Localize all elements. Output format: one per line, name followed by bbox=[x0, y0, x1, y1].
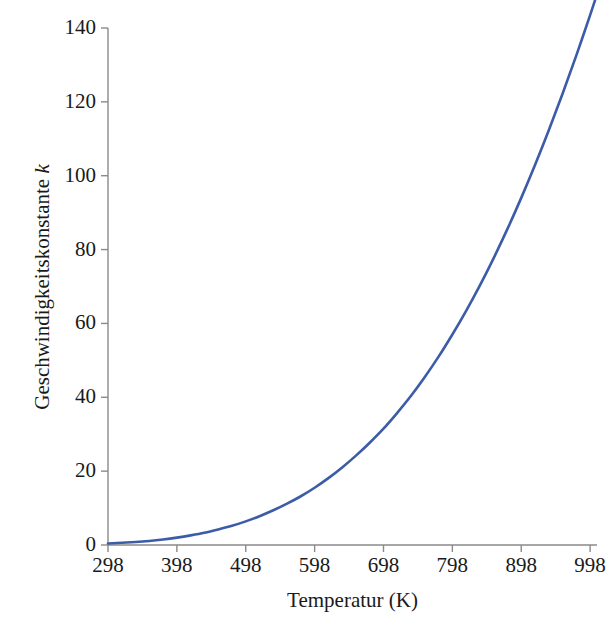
y-axis-label-symbol: k bbox=[30, 164, 54, 173]
x-tick-label: 798 bbox=[437, 555, 469, 576]
y-tick-label: 60 bbox=[75, 312, 96, 333]
y-tick-label: 40 bbox=[75, 386, 96, 407]
x-tick-label: 498 bbox=[230, 555, 262, 576]
y-axis-ticks bbox=[101, 28, 108, 545]
x-tick-label: 998 bbox=[574, 555, 606, 576]
y-tick-label: 0 bbox=[86, 534, 97, 555]
x-tick-label: 298 bbox=[92, 555, 124, 576]
x-tick-label: 898 bbox=[505, 555, 537, 576]
y-tick-label: 20 bbox=[75, 460, 96, 481]
x-tick-label: 698 bbox=[368, 555, 400, 576]
x-axis-ticks bbox=[108, 545, 590, 552]
x-tick-label: 598 bbox=[299, 555, 331, 576]
y-tick-label: 100 bbox=[65, 165, 97, 186]
data-series-group bbox=[108, 0, 596, 544]
x-tick-label: 398 bbox=[161, 555, 193, 576]
x-axis-label: Temperatur (K) bbox=[287, 590, 418, 611]
y-axis-label-text: Geschwindigkeitskonstante bbox=[30, 173, 54, 409]
y-tick-label: 80 bbox=[75, 239, 96, 260]
y-tick-label: 140 bbox=[65, 17, 97, 38]
data-curve bbox=[108, 0, 596, 544]
axis-lines bbox=[108, 28, 597, 545]
y-tick-label: 120 bbox=[65, 91, 97, 112]
y-axis-label: Geschwindigkeitskonstante k bbox=[32, 164, 53, 410]
